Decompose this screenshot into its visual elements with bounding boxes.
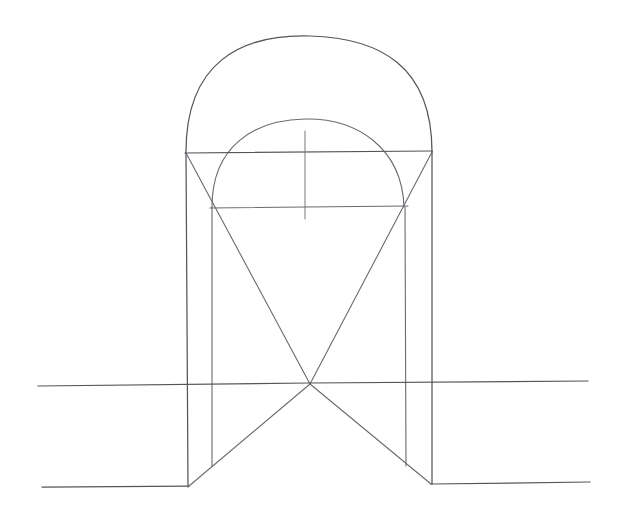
sketch-canvas	[0, 0, 617, 520]
paper-background	[0, 0, 617, 520]
sketch-drawing-surface	[0, 0, 617, 520]
